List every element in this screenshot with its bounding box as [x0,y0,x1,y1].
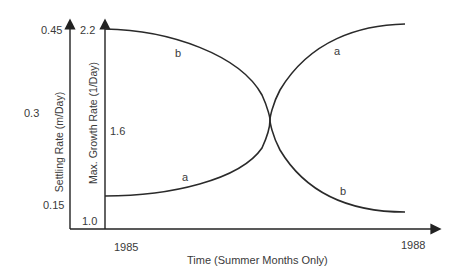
settling-rate-title: Settling Rate (m/Day) [53,92,65,192]
x-tick-1985: 1985 [114,241,138,253]
growth-rate-title: Max. Growth Rate (1/Day) [87,62,99,184]
y1-tick-0.45: 0.45 [41,24,62,36]
curve-label-a-left: a [182,171,189,183]
y1-tick-0.3: 0.3 [24,107,39,119]
y2-tick-2.2: 2.2 [80,24,95,36]
chart-canvas: 0.45 0.3 0.15 2.2 1.6 1.0 Settling Rate … [0,0,458,279]
curve-label-b-left: b [175,47,181,59]
curve-label-a-right: a [334,45,341,57]
curve-a [105,24,405,196]
curve-label-b-right: b [340,185,346,197]
curve-b [105,29,405,212]
y2-tick-1.6: 1.6 [110,125,125,137]
time-axis-title: Time (Summer Months Only) [187,254,328,266]
x-tick-1988: 1988 [401,239,425,251]
y1-tick-0.15: 0.15 [43,199,64,211]
y2-tick-1.0: 1.0 [82,215,97,227]
